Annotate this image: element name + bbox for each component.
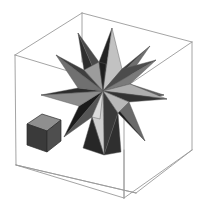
box-edge-bottom-hidden-right [124, 150, 192, 198]
box-edge-bottom-left-overlay [16, 165, 136, 193]
figure-container: Stellated polyhedron in wireframe boundi… [0, 0, 203, 203]
box-edge-vertical-left [15, 55, 16, 165]
scene-svg [0, 0, 203, 203]
wireframe-box-overlay-edges [16, 150, 136, 198]
box-edge-top-left-back [15, 13, 82, 55]
box-edge-bottom-hidden-left [16, 165, 124, 198]
box-edge-top-right-back [82, 13, 192, 42]
small-scale-cube [27, 114, 61, 152]
